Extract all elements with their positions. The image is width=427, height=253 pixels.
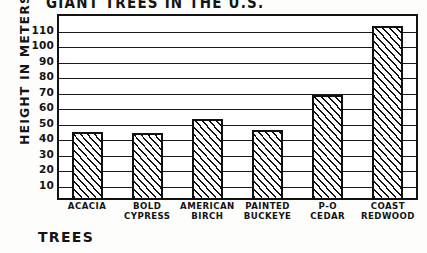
y-axis-tick-label: 70 (28, 86, 54, 98)
y-axis-tick-label: 50 (28, 117, 54, 129)
y-axis-tick-labels: 110100908070605040302010 (24, 14, 54, 200)
x-axis-category-label-line: ACACIA (57, 202, 117, 212)
bar (312, 95, 343, 200)
y-axis-tick-label: 80 (28, 70, 54, 82)
bar (132, 133, 163, 200)
bar (252, 130, 283, 200)
x-axis-title: TREES (38, 229, 94, 245)
x-axis-category-label-line: REDWOOD (358, 212, 418, 222)
x-axis-category-label: ACACIA (57, 202, 117, 212)
bars-group (57, 14, 418, 200)
y-axis-tick-label: 40 (28, 132, 54, 144)
y-axis-tick-label: 10 (28, 179, 54, 191)
y-axis-tick-label: 30 (28, 148, 54, 160)
bar (372, 26, 403, 200)
y-axis-tick-label: 60 (28, 101, 54, 113)
x-axis-category-label-line: BIRCH (177, 212, 237, 222)
x-axis-category-label-line: CEDAR (298, 212, 358, 222)
bar (72, 132, 103, 200)
y-axis-tick-label: 20 (28, 163, 54, 175)
x-axis-category-label: AMERICANBIRCH (177, 202, 237, 221)
x-axis-category-label: P-OCEDAR (298, 202, 358, 221)
y-axis-tick-label: 110 (28, 24, 54, 36)
y-axis-tick-label: 100 (28, 39, 54, 51)
chart-title: GIANT TREES IN THE U.S. (46, 0, 264, 11)
x-axis-category-label: COASTREDWOOD (358, 202, 418, 221)
y-axis-tick-label: 90 (28, 55, 54, 67)
x-axis-category-label: PAINTEDBUCKEYE (238, 202, 298, 221)
x-axis-category-label-line: BUCKEYE (238, 212, 298, 222)
x-axis-category-labels: ACACIABOLDCYPRESSAMERICANBIRCHPAINTEDBUC… (57, 202, 418, 236)
x-axis-category-label: BOLDCYPRESS (117, 202, 177, 221)
bar (192, 119, 223, 200)
x-axis-category-label-line: CYPRESS (117, 212, 177, 222)
bar-chart: GIANT TREES IN THE U.S. HEIGHT IN METERS… (0, 0, 427, 253)
